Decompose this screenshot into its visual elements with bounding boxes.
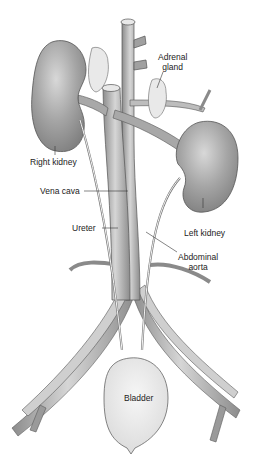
right-kidney bbox=[32, 41, 86, 152]
label-abdominal-aorta: Abdominal aorta bbox=[178, 252, 218, 272]
label-line: Ureter bbox=[72, 223, 96, 233]
label-line: Vena cava bbox=[40, 186, 80, 196]
label-vena-cava: Vena cava bbox=[40, 186, 80, 196]
left-kidney bbox=[176, 121, 238, 212]
label-line: Adrenal bbox=[158, 52, 187, 62]
label-adrenal-gland: Adrenal gland bbox=[158, 52, 187, 72]
bladder bbox=[104, 358, 168, 454]
label-bladder: Bladder bbox=[124, 393, 153, 403]
label-line: aorta bbox=[178, 262, 218, 272]
label-line: Bladder bbox=[124, 393, 153, 403]
label-line: gland bbox=[158, 62, 187, 72]
label-left-kidney: Left kidney bbox=[184, 228, 225, 238]
label-line: Left kidney bbox=[184, 228, 225, 238]
label-right-kidney: Right kidney bbox=[30, 157, 77, 167]
label-line: Abdominal bbox=[178, 252, 218, 262]
label-ureter: Ureter bbox=[72, 223, 96, 233]
label-line: Right kidney bbox=[30, 157, 77, 167]
